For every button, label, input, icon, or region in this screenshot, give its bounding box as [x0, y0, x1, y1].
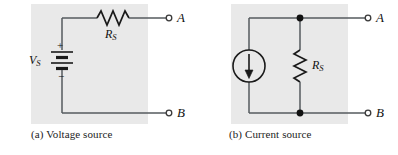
panel-current-source: VS RS RS A B (b) Current source [199, 0, 398, 155]
resistor-label-rs-sub: S [319, 63, 323, 73]
junction-dot-top [297, 15, 304, 22]
panel-b-caption: (b) Current source [199, 128, 398, 140]
terminal-label-a: A [376, 11, 384, 24]
current-source-diagram [199, 0, 398, 126]
terminal-b-node [166, 110, 172, 116]
circuit-figure: RS VS + − A B (a) Voltage source [0, 0, 398, 155]
panel-voltage-source: RS VS + − A B (a) Voltage source [0, 0, 199, 155]
polarity-plus-sign: + [57, 40, 63, 51]
panel-a-caption: (a) Voltage source [0, 128, 230, 140]
resistor-label-rs: RS [312, 59, 324, 73]
junction-dot-bottom [297, 110, 304, 117]
source-label-vs: VS [29, 54, 41, 68]
terminal-a-node [166, 15, 172, 21]
terminal-label-a: A [177, 11, 185, 24]
terminal-a-node [365, 15, 371, 21]
terminal-label-b: B [376, 106, 384, 119]
terminal-label-b: B [177, 106, 185, 119]
polarity-minus-sign: − [58, 71, 64, 82]
resistor-label-rs: RS [105, 28, 117, 42]
resistor-label-rs-sub: S [112, 32, 116, 42]
terminal-b-node [365, 110, 371, 116]
source-label-vs-sub: S [36, 58, 40, 68]
panel-background [31, 4, 148, 124]
